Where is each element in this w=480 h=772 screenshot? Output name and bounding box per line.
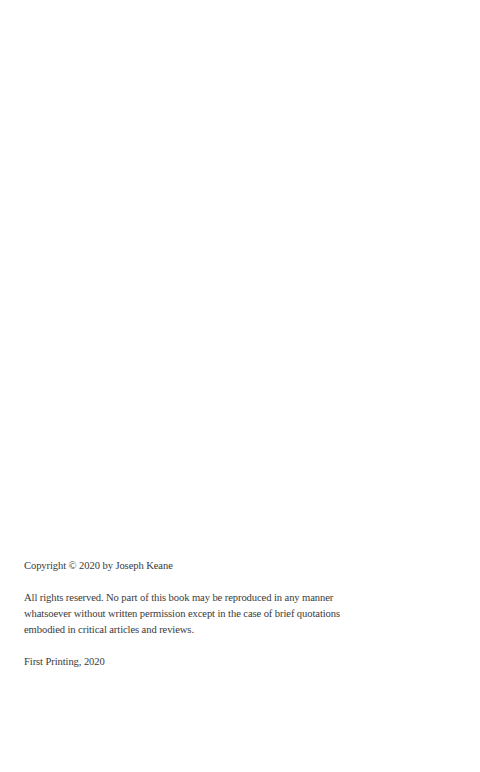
copyright-page: Copyright © 2020 by Joseph Keane All rig…	[24, 558, 354, 670]
rights-line-1: All rights reserved. No part of this boo…	[24, 590, 354, 606]
copyright-notice: Copyright © 2020 by Joseph Keane	[24, 558, 354, 574]
rights-line-2: whatsoever without written permission ex…	[24, 606, 354, 622]
spacer	[24, 574, 354, 590]
spacer	[24, 638, 354, 654]
printing-notice: First Printing, 2020	[24, 654, 354, 670]
rights-line-3: embodied in critical articles and review…	[24, 622, 354, 638]
